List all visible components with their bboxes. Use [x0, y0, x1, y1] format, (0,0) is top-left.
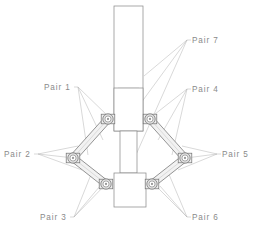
pair-1-label: Pair 1: [44, 83, 71, 92]
pair-7-label: Pair 7: [192, 36, 219, 45]
structure-layer: [114, 6, 146, 207]
pair-3-leader-3: [74, 172, 92, 217]
pair-2-label: Pair 2: [4, 150, 31, 159]
kinematic-pair-diagram: Pair 1Pair 2Pair 3Pair 4Pair 5Pair 6Pair…: [0, 0, 259, 233]
connecting-shaft: [120, 131, 137, 173]
joint-right-apex: [178, 153, 192, 163]
pair-6-leader-3: [168, 172, 187, 217]
joint-lower-left-pin: [105, 183, 107, 185]
pair-7-leader-1: [144, 40, 187, 76]
joint-lower-left: [99, 179, 113, 189]
joint-right-apex-pin: [184, 157, 186, 159]
joint-lower-right: [145, 179, 159, 189]
joint-upper-right: [143, 114, 157, 124]
pair-3-leader-1: [74, 186, 100, 217]
link-upper-right-centreline: [151, 120, 185, 158]
joint-upper-left-pin: [107, 118, 109, 120]
pair-1-leader-1: [78, 87, 110, 118]
joint-lower-right-pin: [151, 183, 153, 185]
joint-left-apex: [66, 153, 80, 163]
pair-6-leader-1: [160, 186, 187, 217]
pair-5-leader-1: [182, 146, 217, 154]
pair-4-label: Pair 4: [192, 85, 219, 94]
joint-upper-right-pin: [149, 118, 151, 120]
joint-upper-left: [101, 114, 115, 124]
diagram-canvas: Pair 1Pair 2Pair 3Pair 4Pair 5Pair 6Pair…: [0, 0, 259, 233]
upper-slider-block: [114, 88, 143, 131]
pair-5-label: Pair 5: [222, 150, 249, 159]
pair-6-label: Pair 6: [192, 213, 219, 222]
pair-3-label: Pair 3: [40, 213, 67, 222]
lower-slider-block: [114, 173, 146, 207]
joint-left-apex-pin: [72, 157, 74, 159]
